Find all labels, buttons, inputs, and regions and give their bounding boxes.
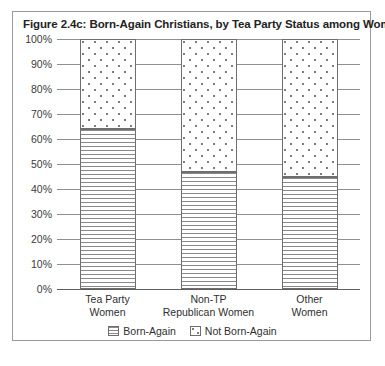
bar-segment-born-again[interactable] (181, 172, 237, 290)
y-axis-tick-label: 40% (31, 183, 52, 195)
category-label-line-2: Women (251, 306, 369, 319)
bar-stack (282, 39, 338, 289)
legend-item[interactable]: Born-Again (108, 325, 176, 337)
legend-label: Born-Again (123, 325, 176, 337)
y-axis-tick-label: 80% (31, 83, 52, 95)
legend-item[interactable]: Not Born-Again (190, 325, 277, 337)
legend-label: Not Born-Again (205, 325, 277, 337)
plot-area: 0%10%20%30%40%50%60%70%80%90%100% (57, 39, 360, 289)
bar-segment-born-again[interactable] (80, 129, 136, 289)
bar-group[interactable] (282, 39, 338, 289)
not-born-again-swatch-icon (190, 326, 201, 336)
y-axis-tick-label: 100% (25, 33, 52, 45)
y-axis-tick-label: 50% (31, 158, 52, 170)
born-again-swatch-icon (108, 326, 119, 336)
bar-segment-not-born-again[interactable] (80, 39, 136, 129)
y-axis-tick-label: 20% (31, 233, 52, 245)
category-label-line-1: Other (251, 293, 369, 306)
bar-segment-not-born-again[interactable] (181, 39, 237, 172)
bar-group[interactable] (80, 39, 136, 289)
bar-group[interactable] (181, 39, 237, 289)
y-axis-tick-label: 90% (31, 58, 52, 70)
x-axis-category-labels: Tea PartyWomenNon-TPRepublican WomenOthe… (57, 293, 360, 327)
bar-stack (80, 39, 136, 289)
bar-segment-not-born-again[interactable] (282, 39, 338, 177)
bar-stack (181, 39, 237, 289)
y-axis-tick-label: 10% (31, 258, 52, 270)
chart-title: Figure 2.4c: Born-Again Christians, by T… (23, 18, 365, 30)
x-axis-line (57, 289, 360, 290)
figure-frame: Figure 2.4c: Born-Again Christians, by T… (12, 11, 371, 341)
bar-segment-born-again[interactable] (282, 177, 338, 290)
y-axis-tick-label: 30% (31, 208, 52, 220)
y-axis-tick-label: 60% (31, 133, 52, 145)
chart-legend: Born-AgainNot Born-Again (13, 325, 372, 337)
x-axis-category-label: OtherWomen (251, 293, 369, 319)
y-axis-tick-label: 70% (31, 108, 52, 120)
